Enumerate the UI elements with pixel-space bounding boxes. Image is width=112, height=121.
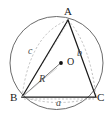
side-label-a: a — [56, 98, 61, 108]
center-point-dot — [59, 61, 63, 65]
radius-label-r: R — [39, 74, 45, 84]
side-label-b: b — [77, 48, 82, 58]
triangle-abc — [22, 20, 96, 97]
side-label-c: c — [28, 46, 32, 56]
vertex-label-b: B — [10, 92, 17, 103]
center-label-o: O — [67, 57, 74, 67]
vertex-label-c: C — [97, 92, 104, 103]
vertex-label-a: A — [64, 6, 72, 17]
geometry-figure: A B C O a b c R — [0, 0, 112, 121]
